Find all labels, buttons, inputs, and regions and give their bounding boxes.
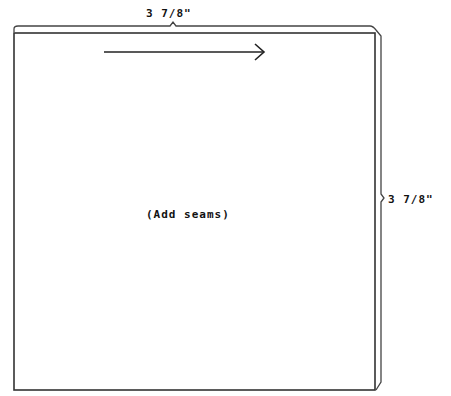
width-label: 3 7/8"	[146, 7, 192, 20]
pattern-diagram	[0, 0, 451, 396]
height-label: 3 7/8"	[388, 193, 434, 206]
right-dimension-bracket	[376, 30, 384, 390]
center-note: (Add seams)	[146, 208, 230, 221]
top-dimension-bracket	[14, 22, 376, 32]
